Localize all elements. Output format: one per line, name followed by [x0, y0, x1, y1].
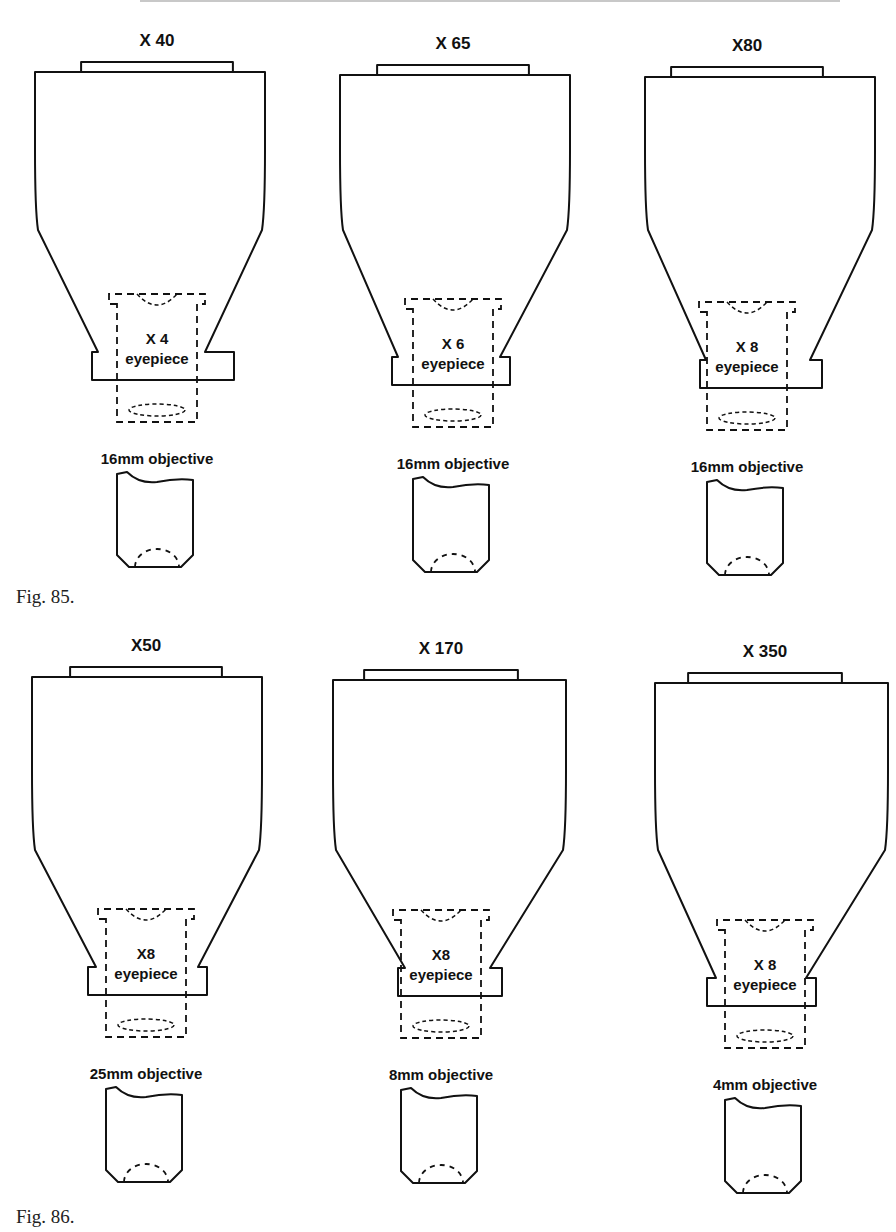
eyepiece-label: eyepiece	[125, 350, 188, 367]
field-lens-lower	[118, 1019, 174, 1031]
projector-top-cap	[671, 67, 823, 77]
eyepiece-power-label: X 8	[736, 338, 759, 355]
field-lens-lower	[719, 412, 775, 424]
objective-lens-dashed	[431, 554, 475, 572]
objective-label: 16mm objective	[691, 458, 804, 475]
magnification-label: X 350	[743, 642, 787, 661]
eyepiece-power-label: X8	[432, 946, 450, 963]
figure-85: X 40X 4eyepiece16mm objectiveX 65X 6eyep…	[16, 31, 875, 607]
microscope-panel: X 40X 4eyepiece16mm objective	[35, 31, 265, 567]
objective-body-outline	[725, 1098, 801, 1193]
objective-label: 8mm objective	[389, 1066, 493, 1083]
figure-caption: Fig. 85.	[16, 586, 75, 607]
objective-lens-dashed	[135, 549, 179, 567]
magnification-label: X80	[732, 36, 762, 55]
objective-body-outline	[401, 1088, 477, 1183]
magnification-label: X50	[131, 636, 161, 655]
figure-caption: Fig. 86.	[16, 1206, 75, 1227]
objective-label: 4mm objective	[713, 1076, 817, 1093]
objective-body-outline	[413, 477, 489, 572]
objective-lens-dashed	[725, 557, 769, 575]
figure-86: X50X8eyepiece25mm objectiveX 170X8eyepie…	[16, 636, 888, 1227]
eyepiece-power-label: X 8	[754, 956, 777, 973]
microscope-panel: X 65X 6eyepiece16mm objective	[340, 34, 570, 572]
page-header-remnant	[140, 0, 840, 2]
eyepiece-label: eyepiece	[114, 965, 177, 982]
eyepiece-power-label: X 6	[442, 335, 465, 352]
microscope-figures: X 40X 4eyepiece16mm objectiveX 65X 6eyep…	[0, 0, 896, 1232]
field-lens-lower	[737, 1030, 793, 1042]
eye-lens-upper	[433, 299, 473, 310]
field-lens-lower	[425, 409, 481, 421]
objective-lens-dashed	[743, 1175, 787, 1193]
eye-lens-upper	[727, 302, 767, 313]
projector-top-cap	[377, 65, 529, 75]
objective-label: 25mm objective	[90, 1065, 203, 1082]
objective-label: 16mm objective	[101, 450, 214, 467]
projector-top-cap	[688, 673, 842, 683]
objective-body-outline	[707, 480, 783, 575]
projector-top-cap	[70, 667, 222, 677]
eye-lens-upper	[126, 909, 166, 920]
objective-lens-dashed	[124, 1164, 168, 1182]
eye-lens-upper	[137, 294, 177, 305]
eyepiece-power-label: X8	[137, 945, 155, 962]
magnification-label: X 65	[436, 34, 471, 53]
objective-label: 16mm objective	[397, 455, 510, 472]
projector-top-cap	[364, 670, 518, 680]
microscope-panel: X80X 8eyepiece16mm objective	[645, 36, 875, 575]
microscope-panel: X 170X8eyepiece8mm objective	[333, 639, 566, 1183]
field-lens-lower	[129, 404, 185, 416]
eyepiece-label: eyepiece	[733, 976, 796, 993]
eye-lens-upper	[421, 910, 461, 921]
eyepiece-power-label: X 4	[146, 330, 169, 347]
objective-body-outline	[117, 472, 193, 567]
magnification-label: X 170	[419, 639, 463, 658]
projector-body-outline	[645, 77, 875, 388]
objective-body-outline	[106, 1087, 182, 1182]
projector-top-cap	[81, 62, 233, 72]
magnification-label: X 40	[140, 31, 175, 50]
eyepiece-label: eyepiece	[409, 966, 472, 983]
microscope-panel: X 350X 8eyepiece4mm objective	[655, 642, 888, 1193]
field-lens-lower	[413, 1020, 469, 1032]
eyepiece-label: eyepiece	[421, 355, 484, 372]
microscope-panel: X50X8eyepiece25mm objective	[32, 636, 262, 1182]
eye-lens-upper	[745, 920, 785, 931]
objective-lens-dashed	[419, 1165, 463, 1183]
eyepiece-label: eyepiece	[715, 358, 778, 375]
